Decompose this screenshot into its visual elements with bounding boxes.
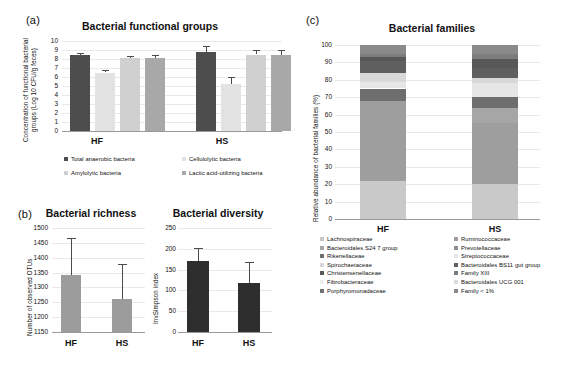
panel-a: (a) Bacterial functional groups Concentr… [0, 0, 292, 196]
legend-swatch [320, 246, 324, 250]
legend-swatch [182, 157, 186, 161]
bar [238, 283, 260, 332]
error-bar-cap [228, 77, 235, 78]
ytick: 0 [312, 215, 332, 222]
gridline [62, 50, 282, 51]
stack-segment [360, 89, 406, 101]
panel-a-group-label-hs: HS [197, 136, 247, 146]
legend-item: Porphyromonadaceae [320, 288, 386, 294]
ytick: 200 [156, 245, 176, 252]
legend-item: Bacteroidales UCG 001 [454, 279, 524, 285]
stack-segment [360, 57, 406, 60]
bar [196, 52, 216, 131]
stack-segment [360, 61, 406, 73]
legend-item: Spirochaetaceae [320, 262, 372, 268]
legend-item: Ruminococcaceae [454, 236, 510, 242]
stack-segment [360, 45, 406, 54]
stack-segment [360, 101, 406, 181]
stacked-bar [360, 45, 406, 219]
ytick: 50 [156, 307, 176, 314]
gridline [52, 273, 145, 274]
panel-b-letter: (b) [18, 208, 32, 220]
panel-c-title: Bacterial families [352, 22, 512, 34]
ytick: 0 [156, 328, 176, 335]
stack-segment [472, 68, 518, 78]
legend-swatch [320, 280, 324, 284]
legend-swatch [320, 271, 324, 275]
panel-b-richness-title: Bacterial richness [36, 207, 146, 219]
legend-swatch [320, 254, 324, 258]
error-bar [249, 262, 250, 284]
error-bar-cap [127, 56, 134, 57]
stack-segment [472, 97, 518, 107]
stack-segment [472, 59, 518, 68]
panel-c-letter: (c) [306, 14, 319, 26]
gridline [178, 249, 272, 250]
ytick: 1450 [28, 239, 48, 246]
legend-label: Porphyromonadaceae [327, 288, 386, 294]
bar [95, 73, 115, 132]
ytick: 60 [312, 111, 332, 118]
bar [120, 58, 140, 131]
ytick: 30 [312, 163, 332, 170]
legend-label: Total anaerobic bacteria [71, 156, 135, 162]
legend-swatch [454, 289, 458, 293]
error-bar-cap [203, 46, 210, 47]
panel-b-richness-label-hf: HF [54, 338, 88, 348]
panel-c-xaxis [335, 219, 540, 220]
panel-c: (c) Bacterial families Relative abundanc… [292, 0, 581, 386]
bar [271, 55, 291, 131]
gridline [62, 41, 282, 42]
error-bar-cap [67, 238, 76, 239]
stacked-bar [472, 45, 518, 219]
panel-b-diversity-title: Bacterial diversity [158, 207, 278, 219]
ytick: 10 [312, 198, 332, 205]
ytick: 10 [40, 37, 58, 44]
bar [70, 55, 90, 131]
panel-b: (b) Bacterial richness Bacterial diversi… [0, 196, 292, 386]
gridline [178, 228, 272, 229]
legend-swatch [182, 171, 186, 175]
legend-label: Streptococcaceae [461, 253, 509, 259]
legend-item: Bacteroidales S24 7 group [320, 245, 398, 251]
panel-b-richness-label-hs: HS [105, 338, 139, 348]
error-bar-cap [253, 50, 260, 51]
gridline [52, 258, 145, 259]
stack-segment [472, 123, 518, 184]
panel-a-ylabel-line2: groups (Log 10 CFU/g feces) [30, 30, 38, 150]
bar [221, 84, 241, 131]
gridline [52, 228, 145, 229]
ytick: 90 [312, 58, 332, 65]
ytick: 1300 [28, 283, 48, 290]
legend-label: Lachnospiraceae [327, 236, 373, 242]
error-bar-cap [152, 55, 159, 56]
stack-segment [472, 108, 518, 124]
legend-label: Bacteroidales BS11 gut group [461, 262, 540, 268]
error-bar [198, 248, 199, 261]
ytick: 8 [40, 55, 58, 62]
legend-item: Cellulolytic bacteria [182, 156, 241, 162]
panel-c-group-label-hs: HS [465, 224, 525, 234]
legend-label: Cellulolytic bacteria [189, 156, 241, 162]
ytick: 1500 [28, 224, 48, 231]
legend-label: Bacteroidales UCG 001 [461, 279, 524, 285]
error-bar [71, 238, 72, 275]
legend-label: Family < 1% [461, 288, 494, 294]
ytick: 1 [40, 118, 58, 125]
legend-swatch [320, 237, 324, 241]
panel-a-letter: (a) [26, 14, 40, 26]
error-bar [122, 264, 123, 299]
bar [145, 58, 165, 131]
stack-segment [360, 82, 406, 89]
ytick: 1400 [28, 254, 48, 261]
legend-item: Rikenellaceae [320, 253, 365, 259]
legend-label: Fibrobacteraceae [327, 279, 374, 285]
stack-segment [472, 184, 518, 219]
legend-item: Lactic acid-utilizing bacteria [182, 170, 263, 176]
panel-c-legend: LachnospiraceaeBacteroidales S24 7 group… [320, 236, 578, 300]
error-bar [231, 77, 232, 84]
ytick: 250 [156, 224, 176, 231]
stack-segment [472, 45, 518, 54]
ytick: 70 [312, 93, 332, 100]
error-bar-cap [118, 264, 127, 265]
